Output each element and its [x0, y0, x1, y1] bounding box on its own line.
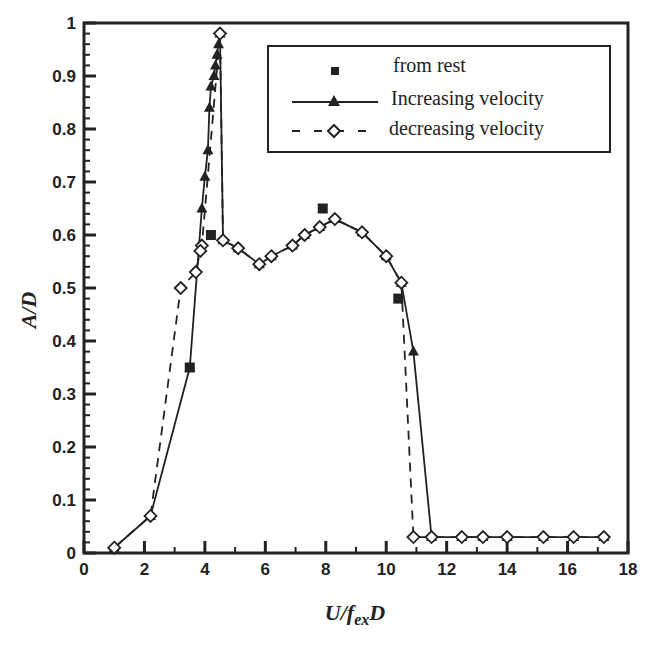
y-axis-title: A/D [16, 292, 41, 331]
y-tick-label: 0.9 [52, 67, 76, 86]
y-tick-label: 0 [67, 544, 76, 563]
diamond-marker-icon [598, 531, 610, 543]
square-marker-icon [318, 204, 328, 214]
y-tick-label: 0.8 [52, 120, 76, 139]
legend: from rest Increasing velocity decreasing… [268, 46, 610, 152]
x-axis-title: U/fexD [325, 600, 385, 628]
diamond-marker-icon [214, 28, 226, 40]
x-tick-label: 12 [437, 560, 456, 579]
y-tick-label: 0.6 [52, 226, 76, 245]
diamond-marker-icon [395, 277, 407, 289]
legend-label-increasing: Increasing velocity [391, 87, 544, 110]
diamond-marker-icon [501, 531, 513, 543]
x-tick-label: 16 [558, 560, 577, 579]
x-tick-label: 6 [261, 560, 270, 579]
y-tick-label: 0.1 [52, 491, 76, 510]
y-tick-label: 0.7 [52, 173, 76, 192]
x-tick-label: 8 [321, 560, 330, 579]
triangle-marker-icon [210, 59, 221, 69]
diamond-marker-icon [314, 221, 326, 233]
y-tick-label: 0.5 [52, 279, 76, 298]
x-tick-label: 10 [377, 560, 396, 579]
triangle-marker-icon [202, 144, 213, 154]
diamond-marker-icon [568, 531, 580, 543]
diamond-marker-icon [407, 531, 419, 543]
diamond-marker-icon [329, 213, 341, 225]
chart-canvas: 00.10.20.30.40.50.60.70.80.9102468101214… [0, 0, 654, 648]
x-tick-label: 0 [79, 560, 88, 579]
diamond-marker-icon [456, 531, 468, 543]
diamond-marker-icon [426, 531, 438, 543]
diamond-marker-icon [175, 282, 187, 294]
triangle-marker-icon [199, 171, 210, 181]
legend-square-marker-icon [331, 67, 339, 75]
legend-label-decreasing: decreasing velocity [389, 117, 544, 140]
diamond-marker-icon [217, 234, 229, 246]
x-tick-label: 18 [619, 560, 638, 579]
triangle-marker-icon [408, 346, 419, 356]
series-from-rest [185, 204, 404, 373]
square-marker-icon [206, 230, 216, 240]
y-tick-label: 0.2 [52, 438, 76, 457]
x-tick-label: 4 [200, 560, 210, 579]
diamond-marker-icon [537, 531, 549, 543]
x-tick-label: 2 [140, 560, 149, 579]
diamond-marker-icon [477, 531, 489, 543]
y-tick-label: 0.4 [52, 332, 76, 351]
legend-label-from-rest: from rest [393, 54, 466, 76]
triangle-marker-icon [208, 70, 219, 80]
diamond-marker-icon [265, 250, 277, 262]
y-tick-label: 0.3 [52, 385, 76, 404]
x-tick-label: 14 [498, 560, 517, 579]
y-tick-label: 1 [67, 14, 76, 33]
